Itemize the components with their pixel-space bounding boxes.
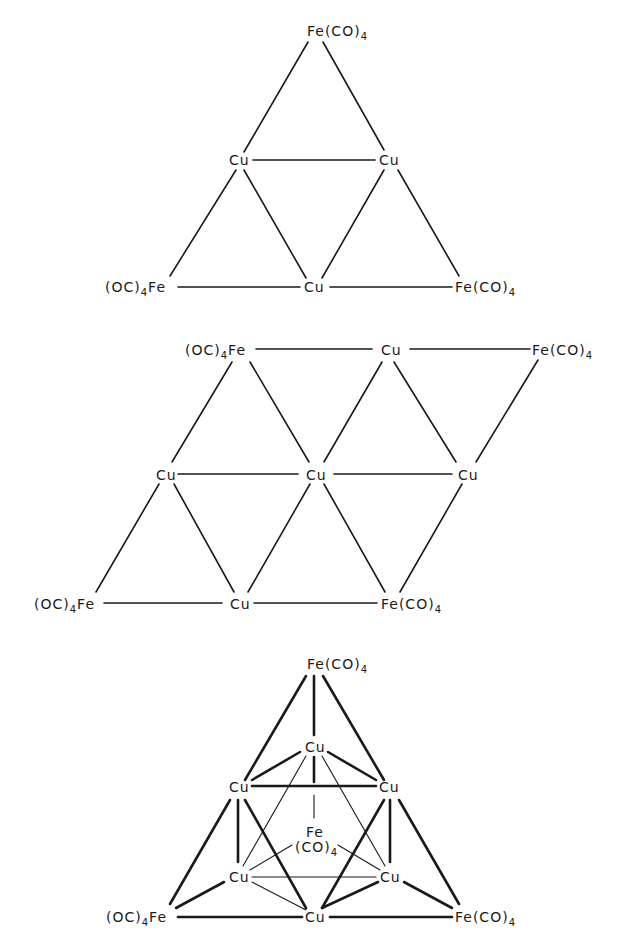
atom-fe-bottom-left: (OC)4Fe	[34, 596, 95, 615]
atom-cu-mid-right: Cu	[458, 467, 479, 483]
atom-cu-bottom: Cu	[304, 279, 325, 295]
atom-cu-bottom: Cu	[230, 596, 251, 612]
atom-cu-upper-right: Cu	[379, 779, 400, 795]
atom-fe-bottom-left: (OC)4Fe	[106, 909, 167, 928]
structure-3: Fe(CO)4 Cu Cu Cu Fe (CO)4 Cu Cu (OC)4Fe …	[106, 656, 516, 928]
atom-cu-lower-left: Cu	[229, 869, 250, 885]
structure-2: (OC)4Fe Cu Fe(CO)4 Cu Cu Cu (OC)4Fe Cu F…	[34, 342, 593, 615]
atom-fe-bottom-right: Fe(CO)4	[455, 279, 516, 298]
svg-text:(CO)4: (CO)4	[295, 839, 338, 858]
atom-cu-mid-center: Cu	[306, 467, 327, 483]
bonds	[170, 42, 459, 287]
cluster-structures-diagram: Fe(CO)4 Cu Cu (OC)4Fe Cu Fe(CO)4 (OC)4Fe	[0, 0, 625, 934]
svg-text:Fe: Fe	[306, 824, 324, 840]
atom-cu-apex: Cu	[305, 739, 326, 755]
atom-fe-center: Fe (CO)4	[295, 824, 338, 858]
atom-fe-bottom-left: (OC)4Fe	[105, 279, 166, 298]
atom-fe-top-right: Fe(CO)4	[532, 342, 593, 361]
atom-fe-top-left: (OC)4Fe	[185, 342, 246, 361]
atom-cu-top: Cu	[381, 342, 402, 358]
atom-cu-mid-left: Cu	[156, 467, 177, 483]
atom-cu-upper-left: Cu	[229, 779, 250, 795]
atom-fe-bottom-right: Fe(CO)4	[455, 909, 516, 928]
structure-1: Fe(CO)4 Cu Cu (OC)4Fe Cu Fe(CO)4	[105, 23, 516, 298]
atom-cu-bottom: Cu	[305, 909, 326, 925]
atom-fe-top: Fe(CO)4	[307, 656, 368, 675]
atom-cu-right: Cu	[379, 152, 400, 168]
atom-cu-left: Cu	[229, 152, 250, 168]
atom-fe-top: Fe(CO)4	[307, 23, 368, 42]
atom-fe-bottom-right: Fe(CO)4	[381, 596, 442, 615]
atom-cu-lower-right: Cu	[380, 869, 401, 885]
